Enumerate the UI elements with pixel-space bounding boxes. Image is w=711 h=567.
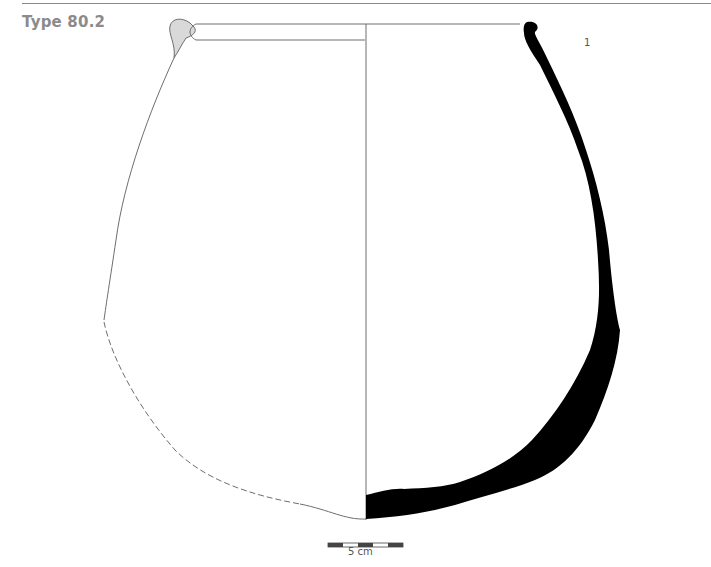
exterior-outline-dashed — [104, 322, 300, 504]
scale-label: 5 cm — [348, 546, 373, 557]
pottery-drawing — [0, 0, 711, 567]
exterior-outline-solid — [104, 58, 174, 320]
rim-band — [190, 24, 520, 40]
profile-section — [366, 22, 620, 519]
exterior-outline-base — [300, 504, 366, 519]
rim-section-left — [170, 19, 196, 58]
